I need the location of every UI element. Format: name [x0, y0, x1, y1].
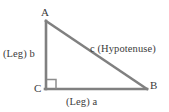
side-label-hypotenuse: c (Hypotenuse)	[90, 44, 156, 55]
side-hypotenuse-line	[46, 21, 147, 89]
vertex-label-c: C	[34, 83, 41, 94]
vertex-label-b: B	[150, 80, 157, 91]
right-triangle-figure: A B C (Leg) b (Leg) a c (Hypotenuse)	[0, 0, 169, 112]
vertex-label-a: A	[41, 7, 49, 18]
side-label-leg-a: (Leg) a	[66, 97, 97, 108]
side-label-leg-b: (Leg) b	[3, 49, 35, 60]
right-angle-square-icon	[47, 80, 56, 89]
